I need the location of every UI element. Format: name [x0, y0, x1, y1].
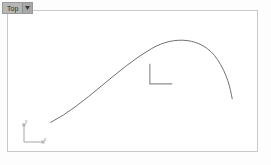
view-label-text: Top: [3, 3, 22, 13]
axis-label-y: y: [25, 120, 27, 125]
l-shaped-corner-gizmo[interactable]: [150, 64, 172, 84]
view-label-dropdown[interactable]: Top: [2, 2, 33, 14]
world-axis-tripod: y x: [18, 120, 52, 146]
axis-label-x: x: [44, 138, 46, 143]
chevron-down-icon[interactable]: [22, 3, 32, 13]
app-screen: Top y x: [0, 0, 271, 165]
arc-spline-curve[interactable]: [51, 40, 233, 122]
